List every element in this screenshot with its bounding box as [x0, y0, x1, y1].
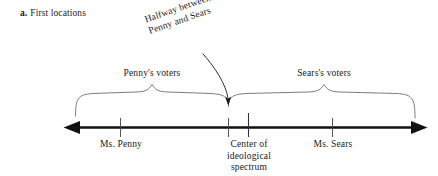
- axis-tick-marks: [121, 113, 333, 137]
- ideological-spectrum-figure: a.First locations H: [0, 0, 438, 176]
- annotation-pointer-arrow: [203, 54, 231, 106]
- ideological-spectrum-axis: [64, 121, 428, 134]
- label-ms-penny: Ms. Penny: [78, 139, 164, 151]
- label-center-line1: Center of: [203, 139, 295, 151]
- brace-penny-voters: [76, 85, 229, 117]
- label-sears-voters: Sears's voters: [272, 68, 376, 80]
- label-ms-sears: Ms. Sears: [292, 139, 374, 151]
- label-center-line3: spectrum: [203, 162, 295, 174]
- label-center-line2: ideological: [203, 151, 295, 163]
- label-center-of-ideological-spectrum: Center of ideological spectrum: [203, 139, 295, 174]
- brace-sears-voters: [229, 85, 416, 119]
- label-penny-voters: Penny's voters: [100, 68, 204, 80]
